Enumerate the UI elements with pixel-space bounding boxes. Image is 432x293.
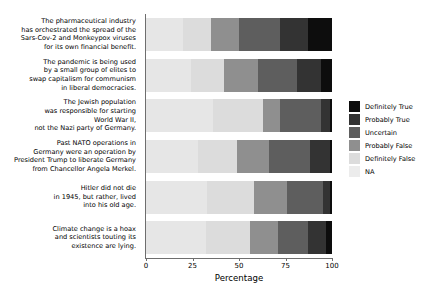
legend-label: Probably False	[365, 142, 412, 150]
bar-segment	[198, 140, 237, 173]
y-axis-label-5: Climate change is a hoax and scientists …	[0, 225, 136, 251]
y-axis-label-2: The Jewish population was responsible fo…	[0, 98, 136, 132]
legend-label: Definitely True	[365, 103, 413, 111]
bar-row	[146, 140, 332, 173]
bar-segment	[237, 140, 269, 173]
legend-label: NA	[365, 168, 374, 176]
bar-row	[146, 221, 332, 254]
x-tick-mark-75	[286, 258, 287, 261]
bar-segment	[287, 181, 322, 214]
legend-swatch-icon	[349, 101, 360, 112]
bar-segment	[146, 181, 207, 214]
legend-swatch-icon	[349, 140, 360, 151]
bar-segment	[326, 221, 332, 254]
x-tick-mark-25	[193, 258, 194, 261]
x-tick-label-75: 75	[271, 262, 301, 271]
legend-item[interactable]: NA	[349, 165, 431, 178]
y-axis-label-3: Past NATO operations in Germany were an …	[0, 139, 136, 173]
bar-segment	[263, 99, 280, 132]
bar-segment	[258, 59, 297, 92]
bar-row	[146, 18, 332, 51]
legend-label: Definitely False	[365, 155, 415, 163]
legend-swatch-icon	[349, 114, 360, 125]
legend-item[interactable]: Probably True	[349, 113, 431, 126]
y-axis-category-labels: The pharmaceutical industry has orchestr…	[0, 14, 140, 258]
bar-segment	[330, 181, 332, 214]
bar-segment	[183, 18, 211, 51]
bar-segment	[146, 140, 198, 173]
y-axis-label-1: The pandemic is being used by a small gr…	[0, 58, 136, 92]
bar-segment	[206, 221, 251, 254]
bar-row	[146, 59, 332, 92]
bar-row	[146, 181, 332, 214]
bar-segment	[330, 140, 332, 173]
legend: Definitely TrueProbably TrueUncertainPro…	[349, 100, 431, 178]
x-axis-title: Percentage	[146, 273, 332, 283]
legend-swatch-icon	[349, 153, 360, 164]
bar-segment	[310, 140, 330, 173]
legend-label: Probably True	[365, 116, 410, 124]
bar-segment	[269, 140, 310, 173]
legend-swatch-icon	[349, 127, 360, 138]
bar-segment	[321, 99, 330, 132]
bar-segment	[323, 181, 330, 214]
bar-segment	[191, 59, 224, 92]
x-tick-label-100: 100	[317, 262, 347, 271]
x-tick-mark-100	[332, 258, 333, 261]
bar-segment	[278, 221, 308, 254]
y-axis-label-0: The pharmaceutical industry has orchestr…	[0, 17, 136, 51]
legend-swatch-icon	[349, 166, 360, 177]
plot-area	[146, 14, 332, 258]
bar-segment	[213, 99, 263, 132]
y-axis-label-4: Hitler did not die in 1945, but rather, …	[0, 184, 136, 210]
bar-segment	[146, 18, 183, 51]
x-tick-mark-50	[239, 258, 240, 261]
bar-row	[146, 99, 332, 132]
bar-segment	[280, 99, 321, 132]
legend-item[interactable]: Uncertain	[349, 126, 431, 139]
bar-segment	[308, 18, 332, 51]
bar-segment	[146, 221, 206, 254]
legend-item[interactable]: Probably False	[349, 139, 431, 152]
bar-segment	[330, 99, 332, 132]
bar-segment	[321, 59, 332, 92]
x-tick-label-25: 25	[178, 262, 208, 271]
legend-label: Uncertain	[365, 129, 397, 137]
x-tick-label-50: 50	[224, 262, 254, 271]
legend-item[interactable]: Definitely True	[349, 100, 431, 113]
bar-segment	[308, 221, 327, 254]
stacked-bar-chart: The pharmaceutical industry has orchestr…	[0, 0, 432, 293]
bar-segment	[280, 18, 308, 51]
bar-segment	[146, 99, 213, 132]
bar-segment	[250, 221, 278, 254]
bar-segment	[254, 181, 287, 214]
x-tick-label-0: 0	[131, 262, 161, 271]
bar-segment	[239, 18, 280, 51]
bar-segment	[224, 59, 257, 92]
bar-segment	[211, 18, 239, 51]
legend-item[interactable]: Definitely False	[349, 152, 431, 165]
bar-segment	[297, 59, 321, 92]
bar-segment	[207, 181, 254, 214]
bar-segment	[146, 59, 191, 92]
x-tick-mark-0	[146, 258, 147, 261]
